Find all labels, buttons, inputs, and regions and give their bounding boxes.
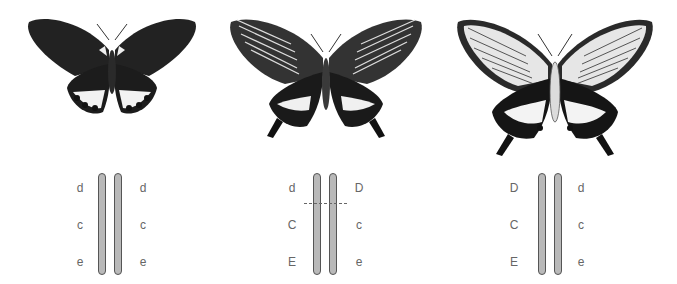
allele-right-3: e bbox=[136, 256, 150, 268]
allele-left-2: C bbox=[507, 219, 521, 231]
chromosome-left bbox=[538, 173, 546, 275]
allele-left-2: c bbox=[73, 219, 87, 231]
allele-right-2: c bbox=[352, 219, 366, 231]
crossover-line bbox=[304, 203, 347, 204]
chromosome-right bbox=[114, 173, 122, 275]
allele-left-3: e bbox=[73, 256, 87, 268]
allele-right-3: e bbox=[574, 256, 588, 268]
allele-right-2: c bbox=[136, 219, 150, 231]
allele-right-1: d bbox=[136, 182, 150, 194]
panel-1: d c e d c e bbox=[0, 0, 220, 284]
chromosome-right bbox=[329, 173, 337, 275]
chromosome-right bbox=[554, 173, 562, 275]
chromosome-left bbox=[313, 173, 321, 275]
allele-left-1: d bbox=[73, 182, 87, 194]
allele-right-3: e bbox=[352, 256, 366, 268]
panel-3: D C E d c e bbox=[440, 0, 677, 284]
chromosome-left bbox=[98, 173, 106, 275]
allele-right-2: c bbox=[574, 219, 588, 231]
allele-left-2: C bbox=[285, 219, 299, 231]
allele-left-1: d bbox=[285, 182, 299, 194]
panel-2: d C E D c e bbox=[220, 0, 440, 284]
allele-left-3: E bbox=[507, 256, 521, 268]
butterfly-tailed-icon bbox=[225, 12, 430, 142]
butterfly-dark-icon bbox=[25, 12, 200, 122]
allele-left-1: D bbox=[507, 182, 521, 194]
allele-right-1: D bbox=[352, 182, 366, 194]
allele-right-1: d bbox=[574, 182, 588, 194]
butterfly-pale-tailed-icon bbox=[452, 12, 662, 162]
allele-left-3: E bbox=[285, 256, 299, 268]
